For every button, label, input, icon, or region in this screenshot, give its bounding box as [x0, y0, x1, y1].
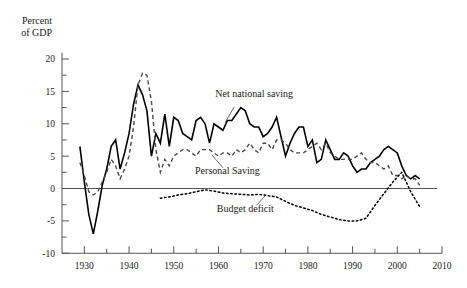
x-tick-label: 1950 [164, 261, 183, 271]
chart-page: 20151050-5-10193019401950196019701980199… [0, 0, 467, 288]
series-line-budget-deficit [160, 172, 419, 221]
y-tick-label: -5 [47, 216, 55, 226]
axes-group: 20151050-5-10193019401950196019701980199… [21, 15, 452, 271]
x-tick-label: 1930 [75, 261, 94, 271]
x-tick-label: 1970 [254, 261, 273, 271]
economic-saving-chart: 20151050-5-10193019401950196019701980199… [0, 0, 467, 288]
series-label-personal-saving: Personal Saving [195, 165, 260, 176]
series-label-budget-deficit: Budget deficit [217, 203, 274, 214]
x-tick-label: 1960 [209, 261, 228, 271]
x-tick-label: 1980 [298, 261, 317, 271]
series-label-net-national-saving: Net national saving [215, 88, 293, 99]
y-tick-label: -10 [42, 249, 55, 259]
y-tick-label: 5 [50, 152, 55, 162]
x-tick-label: 1940 [120, 261, 139, 271]
x-tick-label: 1990 [343, 261, 362, 271]
y-tick-label: 0 [50, 184, 55, 194]
y-tick-label: 15 [46, 87, 56, 97]
y-axis-title-line2: of GDP [21, 27, 52, 38]
x-tick-label: 2000 [388, 261, 407, 271]
y-axis-title-line1: Percent [22, 15, 52, 26]
x-tick-label: 2010 [433, 261, 452, 271]
y-tick-label: 10 [46, 119, 56, 129]
y-tick-label: 20 [46, 54, 56, 64]
